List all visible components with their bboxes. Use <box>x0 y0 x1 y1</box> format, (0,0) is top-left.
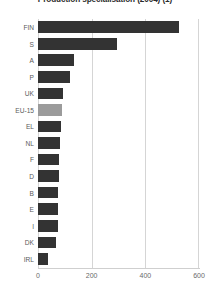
chart-figure: Production specialisation (2004) (1) FIN… <box>0 0 210 302</box>
y-tick-label-fin: FIN <box>0 23 34 32</box>
y-tick-label-b: B <box>0 189 34 198</box>
y-tick-label-s: S <box>0 40 34 49</box>
bar-i <box>38 220 58 232</box>
y-tick-label-d: D <box>0 172 34 181</box>
bar-dk <box>38 237 56 249</box>
plot-area <box>38 19 199 269</box>
gridline-400 <box>145 19 146 269</box>
bar-d <box>38 170 59 182</box>
x-tick-label-0: 0 <box>23 271 53 281</box>
gridline-600 <box>198 19 199 269</box>
bar-fin <box>38 21 179 33</box>
bar-b <box>38 187 58 199</box>
x-axis-line <box>38 268 200 269</box>
bar-eu-15 <box>38 104 62 116</box>
y-tick-label-e: E <box>0 205 34 214</box>
y-tick-label-p: P <box>0 73 34 82</box>
y-tick-label-i: I <box>0 222 34 231</box>
bar-el <box>38 121 61 133</box>
gridline-200 <box>92 19 93 269</box>
y-tick-label-nl: NL <box>0 139 34 148</box>
y-tick-label-irl: IRL <box>0 255 34 264</box>
x-tick-label-600: 600 <box>184 271 210 281</box>
bar-uk <box>38 88 63 100</box>
bar-nl <box>38 137 60 149</box>
y-tick-label-f: F <box>0 155 34 164</box>
y-tick-label-uk: UK <box>0 89 34 98</box>
bar-f <box>38 154 59 166</box>
y-tick-label-eu-15: EU-15 <box>0 106 34 115</box>
bar-irl <box>38 253 48 265</box>
x-tick-label-200: 200 <box>77 271 107 281</box>
y-tick-label-el: EL <box>0 122 34 131</box>
bar-s <box>38 38 117 50</box>
bar-e <box>38 203 58 215</box>
bar-p <box>38 71 70 83</box>
x-tick-label-400: 400 <box>130 271 160 281</box>
bar-a <box>38 54 74 66</box>
chart-title: Production specialisation (2004) (1) <box>0 0 210 5</box>
y-tick-label-a: A <box>0 56 34 65</box>
y-tick-label-dk: DK <box>0 238 34 247</box>
